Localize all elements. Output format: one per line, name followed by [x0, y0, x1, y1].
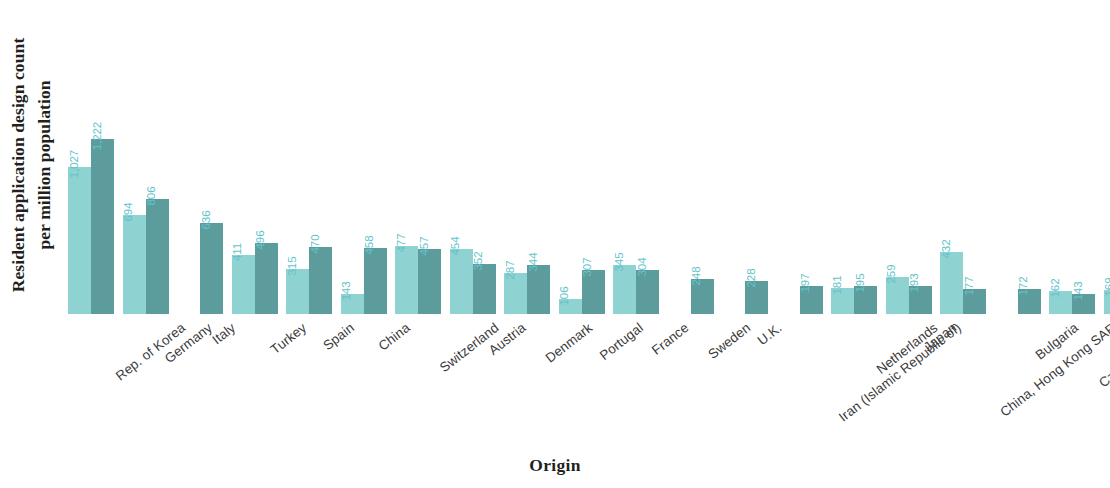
bar-dark[interactable]: 496 — [255, 0, 278, 314]
bar-light[interactable] — [995, 0, 1018, 314]
bar-dark[interactable]: 228 — [745, 0, 768, 314]
bar-light[interactable] — [777, 0, 800, 314]
bar-dark[interactable]: 248 — [691, 0, 714, 314]
bar-value-label: 228 — [745, 269, 757, 288]
bar-light[interactable]: 477 — [395, 0, 418, 314]
bar-pair: 315470 — [286, 0, 332, 314]
bar-pair: 694806 — [123, 0, 169, 314]
bar-rect-light[interactable] — [613, 265, 636, 314]
bar-rect-dark[interactable] — [309, 247, 332, 314]
bar-rect-dark[interactable] — [364, 248, 387, 314]
category-label: Sweden — [705, 320, 753, 362]
bar-rect-light[interactable] — [450, 249, 473, 314]
bar-light[interactable]: 162 — [1049, 0, 1072, 314]
bar-rect-light[interactable] — [232, 255, 255, 314]
bar-pair: 228 — [722, 0, 768, 314]
bar-value-label: 477 — [395, 233, 407, 252]
y-axis-title-line-1: Resident application design count — [8, 38, 29, 293]
bar-light[interactable]: 106 — [559, 0, 582, 314]
bar-dark[interactable]: 177 — [963, 0, 986, 314]
bar-rect-light[interactable] — [68, 167, 91, 314]
bar-dark[interactable]: 636 — [200, 0, 223, 314]
bar-dark[interactable]: 806 — [146, 0, 169, 314]
bar-rect-dark[interactable] — [636, 270, 659, 314]
bar-dark[interactable]: 307 — [582, 0, 605, 314]
bar-pair: 287344 — [504, 0, 550, 314]
bar-rect-light[interactable] — [123, 215, 146, 314]
chart-plot-area: 1,0271,222694806636411496315470143458477… — [62, 0, 1110, 314]
bar-dark[interactable]: 304 — [636, 0, 659, 314]
bar-light[interactable]: 345 — [613, 0, 636, 314]
bar-dark[interactable]: 143 — [1072, 0, 1095, 314]
bar-pair: 259193 — [886, 0, 932, 314]
bar-dark[interactable]: 193 — [909, 0, 932, 314]
bar-value-label: 432 — [940, 240, 952, 259]
bar-light[interactable] — [668, 0, 691, 314]
bar-value-label: 352 — [472, 251, 484, 270]
bar-rect-light[interactable] — [395, 246, 418, 314]
bar-light[interactable]: 287 — [504, 0, 527, 314]
bar-rect-dark[interactable] — [418, 249, 441, 314]
bar-pair: 636 — [177, 0, 223, 314]
bar-light[interactable]: 143 — [341, 0, 364, 314]
bar-light[interactable]: 181 — [831, 0, 854, 314]
bar-value-label: 1,027 — [68, 150, 80, 178]
bar-dark[interactable]: 197 — [800, 0, 823, 314]
bar-value-label: 470 — [309, 234, 321, 253]
bar-rect-dark[interactable] — [473, 264, 496, 314]
bar-light[interactable]: 1,027 — [68, 0, 91, 314]
bar-rect-dark[interactable] — [146, 199, 169, 314]
bar-rect-dark[interactable] — [255, 243, 278, 314]
bar-rect-dark[interactable] — [527, 265, 550, 314]
bar-value-label: 195 — [854, 274, 866, 293]
bar-value-label: 162 — [1049, 278, 1061, 297]
bar-light[interactable]: 694 — [123, 0, 146, 314]
bar-value-label: 197 — [799, 273, 811, 292]
bar-light[interactable]: 315 — [286, 0, 309, 314]
category-label: China — [375, 320, 412, 354]
bar-value-label: 315 — [286, 256, 298, 275]
bar-light[interactable]: 411 — [232, 0, 255, 314]
bar-pair: 1,0271,222 — [68, 0, 114, 314]
bar-dark[interactable]: 1,222 — [91, 0, 114, 314]
bar-value-label: 636 — [200, 210, 212, 229]
bar-rect-light[interactable] — [940, 252, 963, 314]
bar-value-label: 106 — [558, 286, 570, 305]
bar-light[interactable]: 432 — [940, 0, 963, 314]
bar-value-label: 248 — [690, 266, 702, 285]
category-label: France — [649, 320, 692, 358]
bar-value-label: 694 — [122, 202, 134, 221]
bar-light[interactable] — [177, 0, 200, 314]
bar-light[interactable] — [722, 0, 745, 314]
bar-value-label: 193 — [908, 274, 920, 293]
bar-rect-dark[interactable] — [91, 139, 114, 314]
bar-value-label: 169 — [1103, 277, 1110, 296]
bar-dark[interactable]: 344 — [527, 0, 550, 314]
bar-dark[interactable]: 352 — [473, 0, 496, 314]
x-axis-category-labels: Rep. of KoreaGermanyItalyTurkeySpainChin… — [62, 314, 1110, 444]
bar-dark[interactable]: 458 — [364, 0, 387, 314]
bar-pair: 345304 — [613, 0, 659, 314]
bar-light[interactable]: 259 — [886, 0, 909, 314]
bar-rect-dark[interactable] — [200, 223, 223, 314]
bar-dark[interactable]: 172 — [1018, 0, 1041, 314]
bar-value-label: 457 — [418, 236, 430, 255]
bar-dark[interactable]: 457 — [418, 0, 441, 314]
bar-value-label: 806 — [145, 186, 157, 205]
bar-value-label: 172 — [1017, 277, 1029, 296]
x-axis-title: Origin — [0, 455, 1110, 476]
bar-rect-dark[interactable] — [582, 270, 605, 314]
bar-light[interactable]: 454 — [450, 0, 473, 314]
category-label: Turkey — [267, 320, 309, 357]
bar-pair: 411496 — [232, 0, 278, 314]
y-axis-title-line-2: per million population — [34, 80, 55, 249]
bar-rect-light[interactable] — [286, 269, 309, 314]
bar-dark[interactable]: 195 — [854, 0, 877, 314]
bar-dark[interactable]: 470 — [309, 0, 332, 314]
bar-light[interactable]: 169 — [1104, 0, 1110, 314]
bar-value-label: 177 — [963, 276, 975, 295]
category-label: Spain — [320, 320, 357, 353]
bar-pair: 477457 — [395, 0, 441, 314]
category-label: Denmark — [543, 320, 596, 366]
bar-value-label: 287 — [504, 260, 516, 279]
